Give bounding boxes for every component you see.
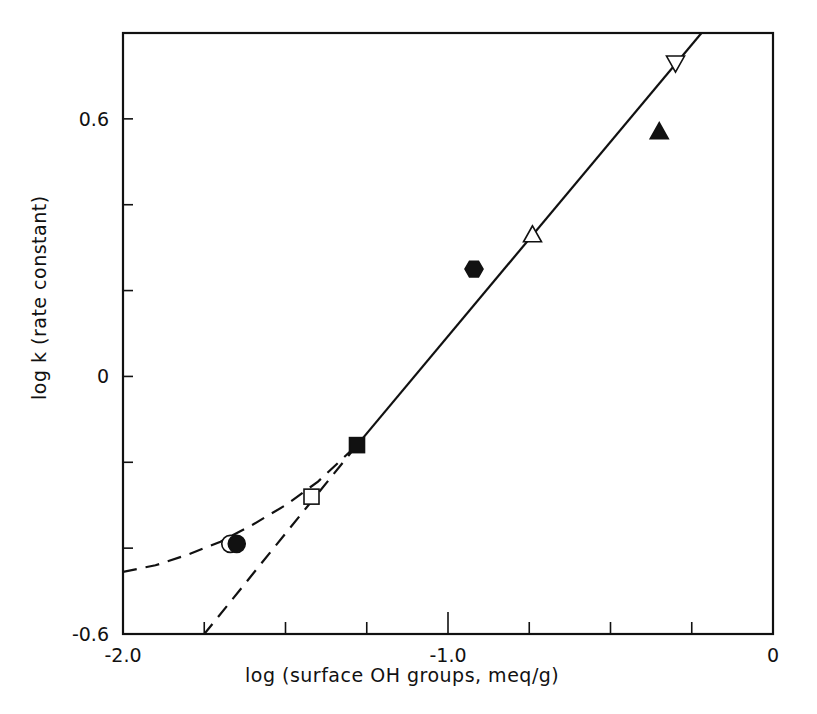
- open-square-marker: [304, 489, 319, 504]
- y-tick-label: 0.6: [79, 108, 109, 130]
- x-axis-label: log (surface OH groups, meq/g): [245, 664, 559, 686]
- y-tick-labels: 0.60-0.6: [72, 108, 109, 645]
- x-tick-label: 0: [767, 644, 779, 666]
- filled-square-marker: [350, 438, 365, 453]
- filled-circle-marker: [228, 535, 245, 552]
- data-markers: [222, 56, 685, 552]
- y-tick-label: 0: [97, 365, 109, 387]
- filled-hexagon-marker: [465, 261, 483, 277]
- chart: -2.0-1.00 0.60-0.6 log (surface OH group…: [0, 0, 817, 714]
- y-axis-ticks: [123, 119, 133, 634]
- x-tick-labels: -2.0-1.00: [104, 644, 779, 666]
- x-tick-label: -2.0: [104, 644, 141, 666]
- plot-frame: [123, 33, 773, 634]
- dashed-fit-line: [123, 445, 357, 572]
- y-tick-label: -0.6: [72, 623, 109, 645]
- x-tick-label: -1.0: [429, 644, 466, 666]
- open-triangle-down-marker: [667, 56, 685, 72]
- filled-triangle-up-marker: [650, 123, 668, 139]
- plot-border: [123, 33, 773, 634]
- y-axis-label: log k (rate constant): [28, 195, 50, 400]
- fit-lines: [123, 33, 702, 634]
